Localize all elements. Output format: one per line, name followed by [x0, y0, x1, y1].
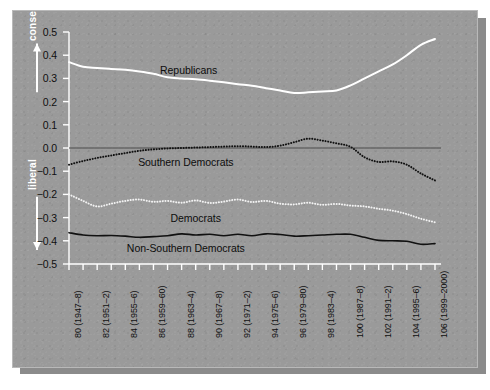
- series-line-2: [69, 194, 435, 222]
- series-label-0: Republicans: [160, 64, 217, 76]
- y-tick-label: 0.3: [27, 72, 57, 84]
- x-tick-label: 100 (1987–8): [355, 286, 365, 338]
- chart-panel: 0.50.40.30.20.10.0−0.1−0.2−0.3−0.4−0.5 8…: [12, 10, 478, 368]
- x-tick-label: 90 (1967–8): [214, 291, 224, 338]
- series-label-3: Non-Southern Democrats: [127, 242, 245, 254]
- y-tick-label: −0.3: [27, 212, 57, 224]
- x-tick-label: 96 (1979–80): [298, 286, 308, 338]
- x-tick-label: 92 (1971–2): [242, 291, 252, 338]
- x-tick-label: 84 (1955–6): [129, 291, 139, 338]
- series-line-1: [69, 139, 435, 181]
- series-label-2: Democrats: [171, 212, 221, 224]
- y-tick-label: 0.2: [27, 96, 57, 108]
- series-label-1: Southern Democrats: [138, 156, 233, 168]
- x-tick-label: 88 (1963–4): [186, 291, 196, 338]
- x-tick-label: 94 (1975–6): [270, 291, 280, 338]
- y-tick-label: −0.2: [27, 188, 57, 200]
- x-tick-label: 106 (1999–2000): [439, 271, 449, 338]
- y-tick-label: 0.4: [27, 49, 57, 61]
- x-tick-label: 104 (1995–6): [411, 286, 421, 338]
- y-tick-label: −0.5: [27, 258, 57, 270]
- x-tick-label: 80 (1947–8): [73, 291, 83, 338]
- series-line-0: [69, 39, 435, 93]
- axis-annotation-conservative: conservative: [27, 10, 38, 41]
- x-tick-label: 98 (1983–4): [326, 291, 336, 338]
- x-tick-label: 102 (1991–2): [383, 286, 393, 338]
- y-tick-label: −0.4: [27, 235, 57, 247]
- y-tick-label: 0.1: [27, 119, 57, 131]
- axis-annotation-liberal: liberal: [27, 159, 38, 190]
- x-tick-label: 82 (1951–2): [101, 291, 111, 338]
- y-tick-label: 0.0: [27, 142, 57, 154]
- figure-container: 0.50.40.30.20.10.0−0.1−0.2−0.3−0.4−0.5 8…: [0, 0, 490, 390]
- series-line-3: [69, 233, 435, 245]
- x-tick-label: 86 (1959–60): [157, 286, 167, 338]
